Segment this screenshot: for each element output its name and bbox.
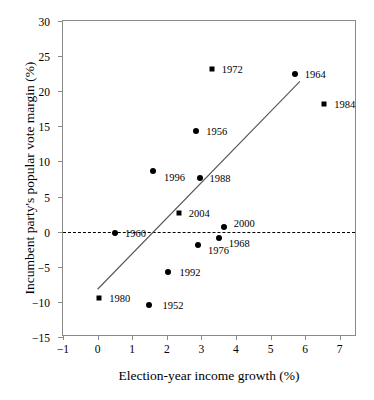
x-tick-label: 1	[129, 343, 135, 355]
data-point-label-1992: 1992	[179, 266, 200, 277]
data-point-label-1960: 1960	[125, 228, 146, 239]
data-point-1952	[146, 302, 152, 308]
y-tick-25: 25	[58, 56, 63, 57]
y-tick--10: −10	[58, 302, 63, 303]
x-tick-label: −1	[57, 343, 69, 355]
x-tick-label: 4	[233, 343, 239, 355]
y-tick-30: 30	[58, 21, 63, 22]
data-point-1976	[195, 242, 201, 248]
zero-reference-line	[63, 232, 355, 233]
data-point-1972	[209, 67, 214, 72]
x-tick-label: 2	[164, 343, 170, 355]
y-tick-10: 10	[58, 161, 63, 162]
x-tick-label: 6	[302, 343, 308, 355]
data-point-label-1980: 1980	[109, 292, 130, 303]
plot-area: 302520151050−5−10−15 −101234567 19521956…	[62, 20, 356, 336]
data-point-2000	[221, 224, 227, 230]
data-point-label-1952: 1952	[162, 299, 183, 310]
y-tick-label: −5	[38, 262, 50, 274]
data-point-label-1968: 1968	[229, 237, 250, 248]
data-point-1992	[165, 269, 171, 275]
data-point-1984	[322, 101, 327, 106]
x-tick-4	[236, 335, 237, 340]
data-point-label-1976: 1976	[208, 245, 229, 256]
data-point-1960	[112, 230, 118, 236]
data-point-label-2000: 2000	[234, 218, 255, 229]
x-tick-label: 3	[198, 343, 204, 355]
data-point-label-1984: 1984	[334, 98, 355, 109]
x-tick-label: 5	[268, 343, 274, 355]
y-tick-label: 25	[39, 51, 51, 63]
y-tick-label: 15	[39, 121, 51, 133]
x-tick--1	[63, 335, 64, 340]
y-tick-20: 20	[58, 91, 63, 92]
data-point-1996	[150, 168, 156, 174]
x-axis-title: Election-year income growth (%)	[62, 368, 356, 384]
data-point-1988	[197, 175, 203, 181]
data-point-1956	[193, 128, 199, 134]
x-tick-3	[201, 335, 202, 340]
y-tick-label: 20	[39, 86, 51, 98]
x-tick-2	[167, 335, 168, 340]
data-point-label-2004: 2004	[189, 208, 210, 219]
data-point-label-1988: 1988	[210, 173, 231, 184]
y-tick--5: −5	[58, 267, 63, 268]
data-point-label-1964: 1964	[305, 68, 326, 79]
data-point-1968	[216, 235, 222, 241]
data-point-label-1972: 1972	[222, 64, 243, 75]
y-tick-5: 5	[58, 197, 63, 198]
x-tick-5	[271, 335, 272, 340]
y-tick-label: 5	[44, 192, 50, 204]
scatter-plot-figure: 302520151050−5−10−15 −101234567 19521956…	[0, 0, 374, 400]
x-tick-label: 0	[95, 343, 101, 355]
x-tick-7	[340, 335, 341, 340]
data-point-label-1956: 1956	[206, 126, 227, 137]
y-tick-label: 0	[44, 227, 50, 239]
x-tick-label: 7	[337, 343, 343, 355]
data-point-label-1996: 1996	[164, 172, 185, 183]
y-tick-label: 10	[39, 156, 51, 168]
x-tick-1	[132, 335, 133, 340]
x-tick-6	[305, 335, 306, 340]
y-tick-15: 15	[58, 126, 63, 127]
y-tick-label: 30	[39, 16, 51, 28]
data-point-2004	[176, 211, 181, 216]
x-tick-0	[98, 335, 99, 340]
y-axis-title: Incumbent party's popular vote margin (%…	[22, 18, 38, 338]
data-point-1980	[97, 295, 102, 300]
data-point-1964	[292, 71, 298, 77]
